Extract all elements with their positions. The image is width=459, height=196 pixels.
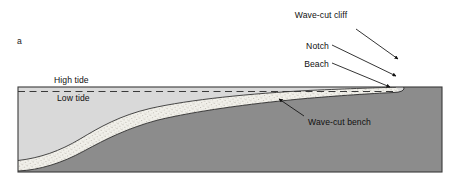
leader-line-notch <box>332 45 396 76</box>
cross-section-body <box>18 12 442 172</box>
label-beach: Beach <box>283 59 329 69</box>
label-wave-cut-bench: Wave-cut bench <box>308 117 371 127</box>
leader-line-wave-cut-cliff <box>356 29 398 59</box>
label-wave-cut-cliff: Wave-cut cliff <box>288 10 354 20</box>
leader-line-beach <box>332 63 390 87</box>
panel-letter: a <box>17 36 22 46</box>
label-notch: Notch <box>285 41 329 51</box>
wave-cut-cliff-face <box>397 12 443 89</box>
label-low-tide: Low tide <box>57 93 90 103</box>
wave-cut-coastline-diagram: a High tide Low tide Wave-cut cliff Notc… <box>0 0 459 196</box>
label-high-tide: High tide <box>54 75 89 85</box>
